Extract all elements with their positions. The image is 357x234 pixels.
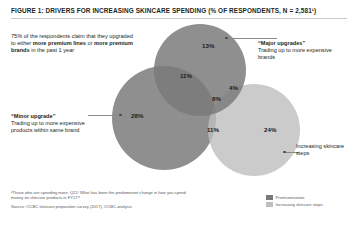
increasing-steps-label: Increasing skincare steps [296, 143, 344, 156]
premium-claim-mid: or [86, 40, 94, 46]
premium-claim-bold2: more premium [94, 40, 133, 46]
minor-upgrade-body: Trading up to more expensive products wi… [11, 120, 85, 133]
premium-claim-line3: premium lines [48, 40, 86, 46]
leader-line-minor-upgrade [88, 115, 121, 116]
venn-value-steps-only: 24% [264, 126, 276, 133]
venn-value-minor-steps: 11% [207, 126, 219, 133]
venn-value-all-three: 8% [212, 95, 221, 102]
premium-claim-line1: 75% of the respondents claim [11, 33, 85, 39]
major-upgrades-body: Trading up to more expensive brands [258, 47, 332, 60]
callout-increasing-skincare-steps: Increasing skincare steps [296, 143, 352, 157]
venn-value-major-only: 13% [202, 42, 214, 49]
title-divider [11, 18, 347, 19]
leader-dot-minor-upgrade [119, 114, 122, 117]
leader-dot-major-upgrades [225, 37, 228, 40]
legend: Premiumisation Increasing skincare steps [266, 195, 352, 209]
callout-premium-claim: 75% of the respondents claim that they u… [11, 33, 137, 55]
venn-value-major-minor: 11% [180, 72, 192, 79]
footnote-source: Source: OCBC skincare proposition survey… [11, 204, 201, 209]
venn-value-minor-only: 28% [131, 112, 143, 119]
legend-swatch-increasing-skincare-steps [266, 202, 273, 207]
page-title: FIGURE 1: DRIVERS FOR INCREASING SKINCAR… [11, 7, 349, 15]
leader-dot-increasing-steps [283, 151, 286, 154]
premium-claim-tail: in the past 1 year [30, 47, 74, 53]
legend-label-premiumisation: Premiumisation [276, 195, 305, 200]
footnote-question: ¹Those who are spending more. Q22: What … [11, 190, 191, 201]
legend-item-increasing-skincare-steps: Increasing skincare steps [266, 202, 352, 207]
callout-minor-upgrade: “Minor upgrade” Trading up to more expen… [11, 113, 91, 135]
venn-circle-minor-upgrade [112, 66, 216, 170]
callout-major-upgrades: “Major upgrades” Trading up to more expe… [258, 40, 350, 62]
legend-item-premiumisation: Premiumisation [266, 195, 352, 200]
premium-claim-bold1: more [33, 40, 47, 46]
venn-circle-increasing-skincare-steps [208, 84, 300, 176]
minor-upgrade-heading: “Minor upgrade” [11, 113, 91, 120]
legend-label-increasing-skincare-steps: Increasing skincare steps [276, 202, 323, 207]
venn-value-major-steps: 4% [229, 84, 238, 91]
major-upgrades-heading: “Major upgrades” [258, 40, 350, 47]
premium-claim-line4: brands [11, 47, 30, 53]
legend-swatch-premiumisation [266, 195, 273, 200]
figure-container: FIGURE 1: DRIVERS FOR INCREASING SKINCAR… [0, 0, 357, 234]
leader-line-major-upgrades [227, 38, 277, 39]
